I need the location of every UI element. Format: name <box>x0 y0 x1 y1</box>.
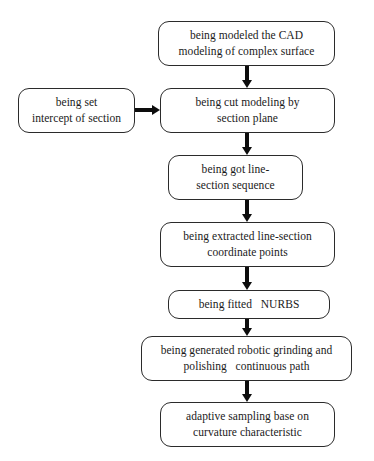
flow-node-fit-nurbs: being fitted NURBS <box>168 290 330 319</box>
arrow-head-icon <box>242 328 252 336</box>
flow-node-extract-coordinate-points-line-2: coordinate points <box>207 245 287 261</box>
arrow-shaft <box>245 200 248 215</box>
arrow-shaft <box>245 267 248 283</box>
arrow-shaft <box>135 108 153 111</box>
flowchart-canvas: being modeled the CADmodeling of complex… <box>0 0 374 461</box>
flow-node-generate-path-line-1: being generated robotic grinding and <box>161 343 333 359</box>
flow-node-adaptive-sampling: adaptive sampling base oncurvature chara… <box>160 402 335 447</box>
arrow-head-icon <box>242 394 252 402</box>
arrow-head-icon <box>242 214 252 222</box>
arrow-head-icon <box>242 80 252 88</box>
flow-node-set-intercept-line-1: being set <box>56 95 98 111</box>
arrow-shaft <box>245 66 248 81</box>
flow-node-cad-modeling-line-2: modeling of complex surface <box>179 44 315 60</box>
flow-node-cad-modeling: being modeled the CADmodeling of complex… <box>158 21 335 66</box>
flow-node-fit-nurbs-line-1: being fitted NURBS <box>199 297 300 313</box>
flow-node-cut-modeling-line-1: being cut modeling by <box>195 95 299 111</box>
flow-node-adaptive-sampling-line-2: curvature characteristic <box>193 425 302 441</box>
flow-node-generate-path-line-2: polishing continuous path <box>184 359 310 375</box>
arrow-shaft <box>245 381 248 395</box>
flow-node-generate-path: being generated robotic grinding andpoli… <box>141 336 352 381</box>
flow-node-set-intercept: being setintercept of section <box>18 88 135 133</box>
arrow-head-icon <box>242 147 252 155</box>
flow-node-cut-modeling: being cut modeling bysection plane <box>160 88 335 133</box>
flow-node-extract-coordinate-points-line-1: being extracted line-section <box>183 229 311 245</box>
flow-node-line-section-sequence-line-2: section sequence <box>196 178 274 194</box>
flow-node-cad-modeling-line-1: being modeled the CAD <box>190 28 303 44</box>
flow-node-adaptive-sampling-line-1: adaptive sampling base on <box>186 409 309 425</box>
arrow-head-icon <box>242 282 252 290</box>
arrow-head-icon <box>152 105 160 115</box>
flow-node-line-section-sequence: being got line-section sequence <box>168 155 303 200</box>
flow-node-cut-modeling-line-2: section plane <box>217 111 278 127</box>
flow-node-set-intercept-line-2: intercept of section <box>32 111 121 127</box>
flow-node-extract-coordinate-points: being extracted line-sectioncoordinate p… <box>160 222 335 267</box>
arrow-shaft <box>245 133 248 148</box>
flow-node-line-section-sequence-line-1: being got line- <box>202 162 270 178</box>
